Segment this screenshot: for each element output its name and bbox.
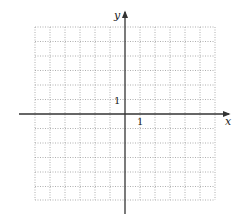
coordinate-plane: x y 1 1 bbox=[0, 0, 237, 216]
y-axis-label: y bbox=[113, 9, 121, 22]
x-axis-label: x bbox=[225, 115, 232, 128]
x-tick-label: 1 bbox=[137, 116, 143, 127]
y-tick-label: 1 bbox=[114, 95, 120, 106]
